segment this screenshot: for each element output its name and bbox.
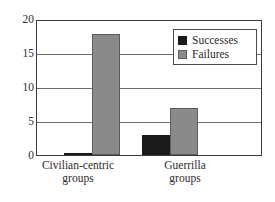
bar-guerrilla-successes <box>142 135 170 155</box>
legend: Successes Failures <box>173 29 257 65</box>
y-axis-tick-label-15: 15 <box>4 48 34 59</box>
x-axis-category-label-line1: Civilian-centric <box>42 159 114 171</box>
bar-civilian-centric-failures <box>92 34 120 155</box>
legend-label-failures: Failures <box>192 48 229 60</box>
x-axis-category-label-civilian-centric-groups: Civilian-centric groups <box>19 159 137 185</box>
plot-area: Successes Failures <box>36 20 262 156</box>
bar-guerrilla-failures <box>170 108 198 155</box>
legend-label-successes: Successes <box>192 34 238 46</box>
y-axis-tick-label-5: 5 <box>4 116 34 127</box>
bar-chart: 20 15 10 5 0 Successes Failures <box>0 0 275 202</box>
x-axis-category-label-guerrilla-groups: Guerrilla groups <box>139 159 231 185</box>
bar-civilian-centric-successes <box>64 153 92 155</box>
y-axis-tick-label-10: 10 <box>4 82 34 93</box>
black-square-swatch-icon <box>178 36 187 45</box>
x-axis-category-label-line1: Guerrilla <box>164 159 206 171</box>
legend-entry-failures: Failures <box>178 47 252 61</box>
legend-entry-successes: Successes <box>178 33 252 47</box>
x-axis-category-label-line2: groups <box>139 172 231 185</box>
y-axis-tick-label-20: 20 <box>4 14 34 25</box>
x-axis-category-label-line2: groups <box>19 172 137 185</box>
gridline-10 <box>37 88 261 89</box>
gray-square-swatch-icon <box>178 50 187 59</box>
gridline-5 <box>37 122 261 123</box>
